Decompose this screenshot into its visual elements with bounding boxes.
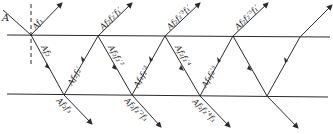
bottom-surface-line <box>7 94 328 97</box>
label-reflected-3: Af₂f₂′³f₁′ <box>164 3 193 32</box>
transmitted-ray-4 <box>267 96 298 128</box>
label-reflected-2: Af₂f₂′f₁′ <box>97 5 124 32</box>
reflected-ray-5 <box>300 5 332 37</box>
thin-film-diagram: A Af₁ Af₂f₂′f₁′ Af₂f₂′³f₁′ Af₂f₂′⁵f₁′ Af… <box>0 0 333 134</box>
top-surface-line <box>7 35 330 37</box>
label-transmitted-1: Af₂f₃ <box>54 95 74 115</box>
label-up-1: Af₂f₂′ <box>65 65 83 88</box>
inside-up-1 <box>64 36 98 95</box>
label-up-3: Af₂f₂′⁵ <box>199 64 219 90</box>
inside-down-4 <box>233 36 267 96</box>
label-down-1: Af₂ <box>39 43 53 59</box>
inside-up-4 <box>267 37 300 96</box>
label-reflected-4: Af₂f₂′⁵f₁′ <box>232 3 261 32</box>
incident-label: A <box>1 12 9 23</box>
label-reflected-1: Af₁ <box>30 16 45 32</box>
label-up-2: Af₂f₂′³ <box>131 65 151 90</box>
